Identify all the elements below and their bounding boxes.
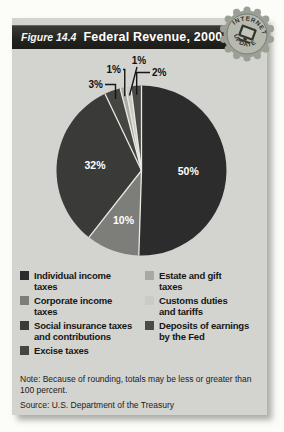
page: Figure 14.4 Federal Revenue, 2000 Indivi…	[0, 0, 284, 432]
legend-column-2: Estate and gift taxesCustoms duties and …	[145, 270, 265, 359]
source-text: Source: U.S. Department of the Treasury	[20, 400, 262, 411]
legend-swatch	[20, 271, 29, 280]
legend-label: Corporate income taxes	[34, 295, 112, 317]
legend-label: Social insurance taxes and contributions	[34, 320, 132, 342]
legend-item: Individual income taxes	[20, 270, 145, 292]
legend: Individual income taxesCorporate income …	[20, 270, 265, 359]
figure-footer: Note: Because of rounding, totals may be…	[20, 374, 262, 411]
legend-item: Customs duties and tariffs	[145, 295, 265, 317]
legend-item: Corporate income taxes	[20, 295, 145, 317]
legend-column-1: Individual income taxesCorporate income …	[20, 270, 145, 359]
legend-label: Deposits of earnings by the Fed	[159, 320, 249, 342]
legend-item: Deposits of earnings by the Fed	[145, 320, 265, 342]
figure-card: Figure 14.4 Federal Revenue, 2000 Indivi…	[12, 18, 267, 415]
internet-update-badge: INTERNET UPDATE	[219, 6, 275, 62]
legend-swatch	[20, 321, 29, 330]
figure-title: Federal Revenue, 2000	[83, 30, 222, 44]
legend-item: Estate and gift taxes	[145, 270, 265, 292]
legend-swatch	[145, 321, 154, 330]
legend-swatch	[145, 296, 154, 305]
legend-item: Social insurance taxes and contributions	[20, 320, 145, 342]
legend-swatch	[145, 271, 154, 280]
note-text: Note: Because of rounding, totals may be…	[20, 374, 262, 396]
figure-number: Figure 14.4	[21, 31, 76, 43]
legend-item: Excise taxes	[20, 345, 145, 356]
legend-label: Customs duties and tariffs	[159, 295, 227, 317]
legend-label: Estate and gift taxes	[159, 270, 221, 292]
legend-label: Excise taxes	[34, 345, 89, 356]
legend-label: Individual income taxes	[34, 270, 111, 292]
legend-swatch	[20, 346, 29, 355]
legend-swatch	[20, 296, 29, 305]
